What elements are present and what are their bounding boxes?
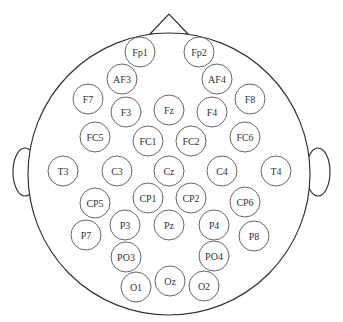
electrode-label: FC5 bbox=[86, 132, 103, 143]
electrode-fp1: Fp1 bbox=[125, 37, 155, 67]
electrode-label: P7 bbox=[81, 230, 92, 241]
electrode-label: P3 bbox=[120, 220, 131, 231]
electrode-label: F8 bbox=[245, 94, 256, 105]
electrode-o2: O2 bbox=[189, 271, 219, 301]
electrode-label: T4 bbox=[270, 166, 281, 177]
electrode-f3: F3 bbox=[111, 97, 141, 127]
electrode-fp2: Fp2 bbox=[184, 37, 214, 67]
electrode-oz: Oz bbox=[155, 266, 185, 296]
electrode-f4: F4 bbox=[197, 97, 227, 127]
electrode-label: AF4 bbox=[208, 74, 226, 85]
electrode-cz: Cz bbox=[154, 156, 184, 186]
electrode-label: Fz bbox=[164, 105, 175, 116]
electrode-p7: P7 bbox=[71, 220, 101, 250]
electrode-t3: T3 bbox=[48, 156, 78, 186]
electrode-label: C3 bbox=[111, 166, 123, 177]
electrode-label: Fp2 bbox=[191, 47, 207, 58]
electrode-p4: P4 bbox=[199, 210, 229, 240]
electrode-cp6: CP6 bbox=[230, 187, 260, 217]
electrode-label: Pz bbox=[164, 220, 175, 231]
electrode-p8: P8 bbox=[239, 221, 269, 251]
electrode-o1: O1 bbox=[121, 272, 151, 302]
electrode-cp2: CP2 bbox=[176, 183, 206, 213]
electrode-label: T3 bbox=[57, 166, 68, 177]
electrode-label: CP5 bbox=[86, 198, 103, 209]
electrode-label: F4 bbox=[207, 107, 218, 118]
electrode-label: CP2 bbox=[182, 193, 199, 204]
electrode-label: PO3 bbox=[117, 252, 135, 263]
electrode-label: FC6 bbox=[236, 132, 253, 143]
electrode-label: P4 bbox=[209, 220, 220, 231]
electrode-po4: PO4 bbox=[199, 241, 229, 271]
electrode-f8: F8 bbox=[235, 84, 265, 114]
electrode-pz: Pz bbox=[154, 210, 184, 240]
electrode-label: O2 bbox=[198, 281, 210, 292]
electrode-label: F3 bbox=[121, 107, 132, 118]
electrode-c3: C3 bbox=[102, 156, 132, 186]
electrode-label: Cz bbox=[163, 166, 175, 177]
electrode-label: F7 bbox=[83, 94, 94, 105]
electrode-label: FC1 bbox=[139, 136, 156, 147]
electrode-label: C4 bbox=[216, 166, 228, 177]
electrode-label: AF3 bbox=[113, 74, 131, 85]
electrode-af4: AF4 bbox=[202, 64, 232, 94]
electrode-label: O1 bbox=[130, 282, 142, 293]
electrode-label: Fp1 bbox=[132, 47, 148, 58]
electrode-c4: C4 bbox=[207, 156, 237, 186]
electrode-p3: P3 bbox=[110, 210, 140, 240]
electrode-label: FC2 bbox=[182, 136, 199, 147]
electrode-po3: PO3 bbox=[111, 242, 141, 272]
electrode-af3: AF3 bbox=[107, 64, 137, 94]
electrode-label: CP6 bbox=[236, 197, 253, 208]
electrode-cp1: CP1 bbox=[133, 183, 163, 213]
electrode-fc6: FC6 bbox=[230, 122, 260, 152]
electrode-cp5: CP5 bbox=[80, 188, 110, 218]
electrode-fc5: FC5 bbox=[80, 122, 110, 152]
electrode-label: CP1 bbox=[139, 193, 156, 204]
electrode-label: P8 bbox=[249, 231, 260, 242]
electrode-t4: T4 bbox=[261, 156, 291, 186]
electrode-fz: Fz bbox=[154, 95, 184, 125]
electrode-label: Oz bbox=[164, 276, 176, 287]
electrode-label: PO4 bbox=[205, 251, 223, 262]
electrode-f7: F7 bbox=[73, 84, 103, 114]
electrode-fc2: FC2 bbox=[176, 126, 206, 156]
nose-marker bbox=[150, 14, 188, 34]
eeg-montage-diagram: Fp1Fp2AF3AF4F7F3FzF4F8FC5FC1FC2FC6T3C3Cz… bbox=[0, 0, 343, 322]
electrode-fc1: FC1 bbox=[133, 126, 163, 156]
